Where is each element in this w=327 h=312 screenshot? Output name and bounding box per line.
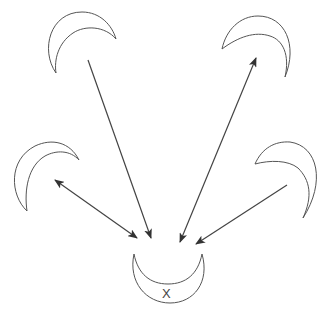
crescent-top-right (222, 16, 290, 77)
crescent-top-left (48, 12, 116, 73)
crescent-left (14, 142, 79, 211)
crescent-center-bottom: X (133, 254, 204, 303)
center-label: X (162, 286, 171, 301)
arrow-right-to-center (196, 185, 287, 244)
diagram-canvas: X (0, 0, 327, 312)
arrow-center-to-top-right (180, 58, 256, 242)
crescent-right (255, 142, 316, 218)
arrow-left-center-bidirectional (55, 180, 137, 238)
arrow-top-left-to-center (88, 60, 151, 238)
